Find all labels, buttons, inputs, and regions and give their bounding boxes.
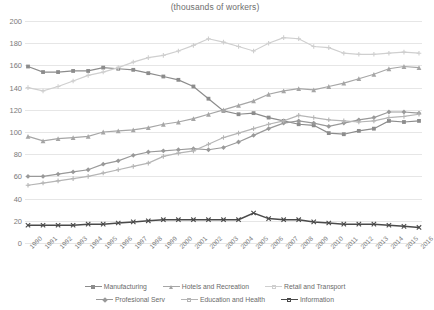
- data-point-marker: [146, 161, 151, 166]
- data-point-marker: [402, 110, 407, 115]
- legend-swatch: [281, 299, 298, 301]
- data-point-marker: [342, 51, 347, 56]
- data-point-marker: [116, 167, 121, 172]
- data-point-marker: [131, 164, 136, 169]
- data-point-marker: [41, 89, 46, 94]
- data-point-marker: [176, 78, 180, 82]
- legend-item-information[interactable]: Information: [281, 296, 334, 303]
- legend-item-education-and-health[interactable]: Education and Health: [181, 296, 265, 303]
- legend-label: Retail and Transport: [284, 283, 345, 290]
- series-information: [26, 211, 421, 230]
- data-point-marker: [161, 148, 166, 153]
- y-axis-tick-label: 160: [9, 61, 22, 70]
- data-point-marker: [372, 119, 377, 124]
- legend-marker-plus-icon: [272, 285, 276, 289]
- legend-label: Hotels and Recreation: [182, 283, 249, 290]
- data-point-marker: [236, 140, 241, 145]
- chart-legend: ManufacturingHotels and RecreationRetail…: [0, 280, 430, 306]
- series-line: [28, 67, 419, 135]
- data-point-marker: [26, 183, 31, 188]
- data-point-marker: [266, 122, 271, 127]
- data-point-marker: [372, 52, 377, 57]
- data-point-marker: [326, 124, 331, 129]
- data-point-marker: [221, 145, 226, 150]
- data-point-marker: [176, 151, 181, 156]
- legend-marker-square-icon: [91, 285, 95, 289]
- data-point-marker: [71, 176, 76, 181]
- data-point-marker: [311, 115, 316, 120]
- data-point-marker: [237, 112, 241, 116]
- legend-label: Profesional Serv: [115, 296, 165, 303]
- series-retail-and-transport: [26, 35, 422, 93]
- plot-area: [25, 21, 422, 243]
- data-point-marker: [387, 51, 392, 56]
- data-point-marker: [41, 70, 45, 74]
- data-point-marker: [417, 51, 422, 56]
- data-point-marker: [116, 158, 121, 163]
- legend-item-hotels-and-recreation[interactable]: Hotels and Recreation: [163, 283, 249, 290]
- legend-item-manufacturing[interactable]: Manufacturing: [85, 283, 147, 290]
- legend-item-retail-and-transport[interactable]: Retail and Transport: [265, 283, 345, 290]
- data-point-marker: [326, 45, 331, 50]
- data-point-marker: [101, 70, 106, 75]
- data-point-marker: [86, 69, 90, 73]
- data-point-marker: [387, 110, 392, 115]
- data-point-marker: [146, 71, 150, 75]
- legend-row-1: ManufacturingHotels and RecreationRetail…: [0, 280, 430, 293]
- data-point-marker: [41, 174, 46, 179]
- data-point-marker: [402, 114, 407, 119]
- chart-title: (thousands of workers): [0, 2, 430, 12]
- legend-marker-diamond-icon: [102, 297, 108, 303]
- data-point-marker: [26, 85, 31, 90]
- data-point-marker: [266, 126, 271, 131]
- data-point-marker: [417, 119, 421, 123]
- data-point-marker: [176, 49, 181, 54]
- legend-item-profesional-serv[interactable]: Profesional Serv: [96, 296, 165, 303]
- legend-swatch: [96, 299, 113, 301]
- data-point-marker: [86, 174, 91, 179]
- data-point-marker: [326, 117, 331, 122]
- data-point-marker: [71, 170, 76, 175]
- data-point-marker: [296, 113, 301, 118]
- data-point-marker: [252, 111, 256, 115]
- data-point-marker: [251, 49, 256, 54]
- legend-marker-x-icon: [287, 298, 291, 302]
- data-point-marker: [26, 174, 31, 179]
- data-point-marker: [267, 116, 271, 120]
- data-point-marker: [161, 53, 166, 58]
- data-point-marker: [101, 162, 106, 167]
- data-point-marker: [191, 43, 196, 48]
- data-point-marker: [357, 52, 362, 57]
- data-point-marker: [56, 70, 60, 74]
- legend-swatch: [163, 286, 180, 288]
- data-point-marker: [236, 131, 241, 136]
- legend-label: Information: [300, 296, 334, 303]
- x-axis-labels: 1990199119921993199419951996199719981999…: [25, 245, 422, 285]
- data-point-marker: [192, 85, 196, 89]
- data-point-marker: [206, 142, 211, 147]
- data-point-marker: [327, 131, 331, 135]
- data-point-marker: [131, 60, 136, 65]
- data-point-marker: [161, 75, 165, 79]
- legend-label: Manufacturing: [104, 283, 147, 290]
- data-point-marker: [146, 150, 151, 155]
- data-point-marker: [251, 126, 256, 131]
- data-point-marker: [281, 35, 286, 40]
- data-point-marker: [311, 44, 316, 49]
- y-axis-tick-label: 60: [14, 172, 22, 181]
- data-point-marker: [101, 66, 105, 70]
- data-point-marker: [56, 172, 61, 177]
- series-layer: [25, 21, 422, 243]
- y-axis-tick-label: 100: [9, 128, 22, 137]
- series-manufacturing: [26, 65, 421, 137]
- data-point-marker: [296, 36, 301, 41]
- data-point-marker: [266, 41, 271, 46]
- data-point-marker: [41, 181, 46, 186]
- legend-label: Education and Health: [200, 296, 265, 303]
- data-point-marker: [207, 97, 211, 101]
- legend-swatch: [265, 286, 282, 288]
- y-axis-tick-label: 40: [14, 194, 22, 203]
- data-point-marker: [357, 129, 361, 133]
- data-point-marker: [86, 167, 91, 172]
- y-axis-tick-label: 200: [9, 17, 22, 26]
